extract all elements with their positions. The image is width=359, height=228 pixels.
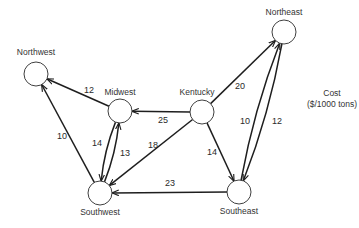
legend-units: ($/1000 tons) (307, 99, 357, 109)
node-southeast: Southeast (220, 180, 259, 216)
edge-kentucky-to-midwest (133, 111, 191, 112)
node-circle-kentucky (190, 100, 214, 124)
edge-labels-layer: 1225201814141310231012 (57, 81, 282, 188)
node-label-kentucky: Kentucky (180, 87, 216, 97)
edge-northeast-to-southeast (244, 44, 282, 181)
edge-kentucky-to-northeast (211, 41, 276, 104)
edge-midwest-to-northwest (47, 79, 109, 106)
edge-southwest-to-northwest (42, 85, 94, 182)
edge-cost-kentucky-to-midwest: 25 (158, 115, 168, 125)
edge-cost-southeast-to-northeast: 10 (240, 116, 250, 126)
node-label-midwest: Midwest (104, 87, 136, 97)
node-label-northeast: Northeast (266, 7, 303, 17)
node-label-southwest: Southwest (80, 207, 120, 217)
cost-legend: Cost ($/1000 tons) (307, 88, 357, 109)
node-circle-northwest (24, 62, 48, 86)
node-circle-northeast (272, 20, 296, 44)
node-kentucky: Kentucky (180, 87, 216, 124)
edge-cost-northeast-to-southeast: 12 (272, 116, 282, 126)
edge-cost-southwest-to-midwest: 13 (120, 148, 130, 158)
edge-cost-kentucky-to-southeast: 14 (207, 147, 217, 157)
node-circle-midwest (108, 99, 132, 123)
node-southwest: Southwest (80, 181, 120, 217)
edge-cost-midwest-to-northwest: 12 (84, 85, 94, 95)
network-diagram: NorthwestMidwestKentuckyNortheastSouthwe… (0, 0, 359, 228)
node-circle-southwest (88, 181, 112, 205)
edge-southeast-to-northeast (241, 44, 279, 181)
legend-title: Cost (323, 88, 341, 98)
edge-cost-southeast-to-southwest: 23 (165, 178, 175, 188)
edge-southeast-to-southwest (113, 192, 228, 193)
edge-cost-kentucky-to-southwest: 18 (148, 140, 158, 150)
node-midwest: Midwest (104, 87, 136, 123)
edge-cost-kentucky-to-northeast: 20 (235, 81, 245, 91)
node-label-southeast: Southeast (220, 206, 259, 216)
node-label-northwest: Northwest (17, 47, 56, 57)
node-northeast: Northeast (266, 7, 303, 44)
node-circle-southeast (227, 180, 251, 204)
edge-cost-midwest-to-southwest: 14 (92, 138, 102, 148)
edge-cost-southwest-to-northwest: 10 (57, 131, 67, 141)
